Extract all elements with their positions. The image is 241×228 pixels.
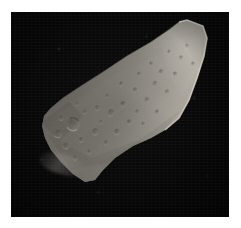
- asteroid-photograph: [0, 0, 241, 228]
- asteroid-body: [11, 12, 229, 217]
- space-background: [11, 12, 229, 217]
- asteroid-surface: [11, 12, 229, 217]
- asteroid-vector: [11, 12, 229, 217]
- scanline-texture: [11, 12, 229, 217]
